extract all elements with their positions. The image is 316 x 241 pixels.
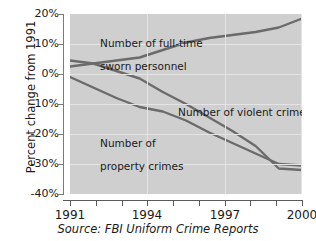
chart-figure: Percent change from 1991 20% 10% 0% -10%…	[0, 0, 316, 241]
y-tick-label: -10%	[15, 99, 59, 109]
x-tick-mark	[70, 200, 71, 206]
y-tick-label: -40%	[15, 189, 59, 199]
plot-area: Number of full-time sworn personnel Numb…	[70, 14, 302, 194]
y-tick-labels: 20% 10% 0% -10% -20% -30% -40%	[11, 0, 59, 241]
y-tick-mark	[57, 74, 64, 75]
label-line-1: Number of full-time	[100, 37, 203, 49]
y-tick-mark	[57, 164, 64, 165]
x-tick-mark	[250, 200, 251, 206]
label-line-1: Number of	[100, 137, 156, 149]
x-tick-mark	[225, 200, 226, 206]
y-tick-mark	[57, 14, 64, 15]
source-caption: Source: FBI Uniform Crime Reports	[0, 222, 316, 236]
x-tick-mark	[96, 200, 97, 206]
y-tick-mark	[57, 134, 64, 135]
x-tick-mark	[276, 200, 277, 206]
full-time-sworn-personnel-label: Number of full-time sworn personnel	[80, 26, 203, 84]
label-line-2: property crimes	[100, 160, 183, 172]
x-tick-mark	[173, 200, 174, 206]
y-tick-label: -30%	[15, 159, 59, 169]
x-tick-mark	[122, 200, 123, 206]
x-tick-label-1991: 1991	[40, 208, 100, 222]
y-tick-mark	[57, 104, 64, 105]
label-line-2: sworn personnel	[100, 60, 187, 72]
y-tick-label: 0%	[15, 69, 59, 79]
violent-crimes-label: Number of violent crimes	[158, 95, 302, 130]
y-tick-label: -20%	[15, 129, 59, 139]
x-tick-mark	[302, 200, 303, 206]
x-axis-line	[63, 200, 303, 201]
x-tick-label-1997: 1997	[195, 208, 255, 222]
label-line-1: Number of violent crimes	[178, 106, 302, 118]
y-tick-label: 10%	[15, 39, 59, 49]
x-tick-mark	[199, 200, 200, 206]
x-tick-label-1994: 1994	[117, 208, 177, 222]
y-tick-mark	[57, 194, 64, 195]
x-tick-label-2000: 2000	[272, 208, 316, 222]
y-tick-mark	[57, 44, 64, 45]
y-tick-label: 20%	[15, 9, 59, 19]
property-crimes-label: Number of property crimes	[80, 126, 183, 184]
x-tick-mark	[147, 200, 148, 206]
